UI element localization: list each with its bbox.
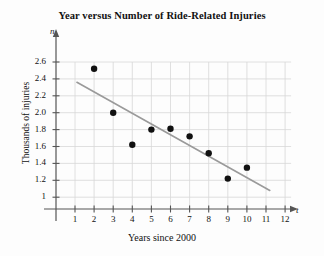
y-tick-label: 2.6 (22, 56, 46, 66)
x-tick-label: 7 (181, 214, 199, 224)
trend-line-segment (77, 82, 270, 190)
y-tick-label: 1.8 (22, 124, 46, 134)
y-tick-label: 2.2 (22, 90, 46, 100)
y-axis-arrowhead (53, 29, 59, 37)
data-point (148, 126, 154, 132)
data-point (206, 150, 212, 156)
y-tick-label: 1.2 (22, 174, 46, 184)
x-tick-label: 5 (142, 214, 160, 224)
trend-line (77, 82, 270, 190)
grid-lines (56, 62, 291, 209)
y-tick-label: 2.0 (22, 107, 46, 117)
y-tick-label: 1.6 (22, 141, 46, 151)
y-tick-label: 2.4 (22, 73, 46, 83)
y-tick-label: 1.4 (22, 157, 46, 167)
data-point (110, 110, 116, 116)
x-tick-label: 3 (104, 214, 122, 224)
data-point (244, 164, 250, 170)
x-tick-label: 6 (162, 214, 180, 224)
axis-lines (44, 29, 298, 221)
x-tick-label: 2 (85, 214, 103, 224)
data-point (167, 126, 173, 132)
chart-container: Year versus Number of Ride-Related Injur… (0, 0, 324, 256)
data-point (186, 133, 192, 139)
x-tick-label: 8 (200, 214, 218, 224)
x-tick-label: 10 (238, 214, 256, 224)
x-tick-label: 4 (123, 214, 141, 224)
x-tick-label: 9 (219, 214, 237, 224)
y-tick-label: 1 (22, 191, 46, 201)
x-tick-label: 1 (66, 214, 84, 224)
tick-marks (53, 62, 286, 213)
data-point (129, 142, 135, 148)
data-point (225, 175, 231, 181)
x-tick-label: 12 (276, 214, 294, 224)
x-tick-label: 11 (257, 214, 275, 224)
x-axis-arrowhead (290, 206, 298, 212)
data-point (91, 66, 97, 72)
